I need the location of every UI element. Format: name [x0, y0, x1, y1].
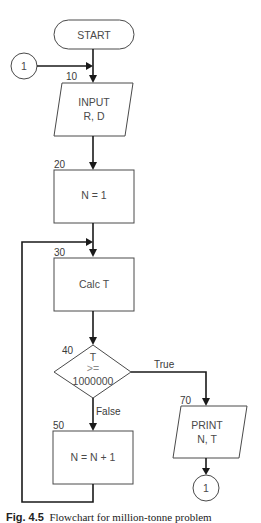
connector-out: 1	[193, 475, 219, 501]
connector-in: 1	[11, 53, 37, 79]
print-line2: N, T	[197, 433, 217, 445]
step-number-30: 30	[54, 247, 66, 258]
arrow-head-icon	[89, 423, 97, 431]
step-number-50: 50	[53, 420, 65, 431]
arrow-head-icon	[89, 162, 97, 170]
increment-label: N = N + 1	[71, 451, 116, 463]
arrow-head-icon	[89, 249, 97, 257]
step-number-20: 20	[54, 159, 66, 170]
input-line1: INPUT	[78, 96, 110, 108]
connector-in-label: 1	[21, 60, 27, 72]
arrow-head-icon	[202, 398, 210, 406]
step-number-40: 40	[62, 345, 74, 356]
start-label: START	[77, 29, 111, 41]
calc-process-box: Calc T	[54, 258, 134, 311]
figure-caption: Fig. 4.5 Flowchart for million-tonne pro…	[6, 511, 212, 523]
calc-label: Calc T	[79, 278, 110, 290]
input-io-box: INPUT R, D	[54, 83, 133, 136]
edge-true-branch	[131, 372, 206, 400]
init-process-box: N = 1	[54, 170, 134, 223]
print-io-box: PRINT N, T	[173, 406, 247, 458]
connector-out-label: 1	[203, 482, 209, 494]
step-number-70: 70	[180, 395, 192, 406]
arrow-head-icon	[86, 62, 93, 70]
true-label: True	[154, 359, 175, 370]
input-line2: R, D	[84, 110, 105, 122]
false-label: False	[96, 406, 121, 417]
arrow-head-icon	[202, 468, 210, 475]
figure-number: Fig. 4.5	[6, 511, 44, 523]
decision-line2: >=	[87, 362, 99, 374]
start-terminal: START	[54, 20, 134, 49]
figure-caption-text: Flowchart for million-tonne problem	[49, 511, 211, 523]
init-label: N = 1	[81, 189, 107, 201]
print-line1: PRINT	[191, 419, 223, 431]
increment-process-box: N = N + 1	[53, 431, 133, 484]
arrow-head-icon	[89, 337, 97, 345]
decision-line3: 1000000	[73, 375, 114, 387]
arrow-head-icon	[89, 75, 97, 83]
step-number-10: 10	[66, 71, 78, 82]
